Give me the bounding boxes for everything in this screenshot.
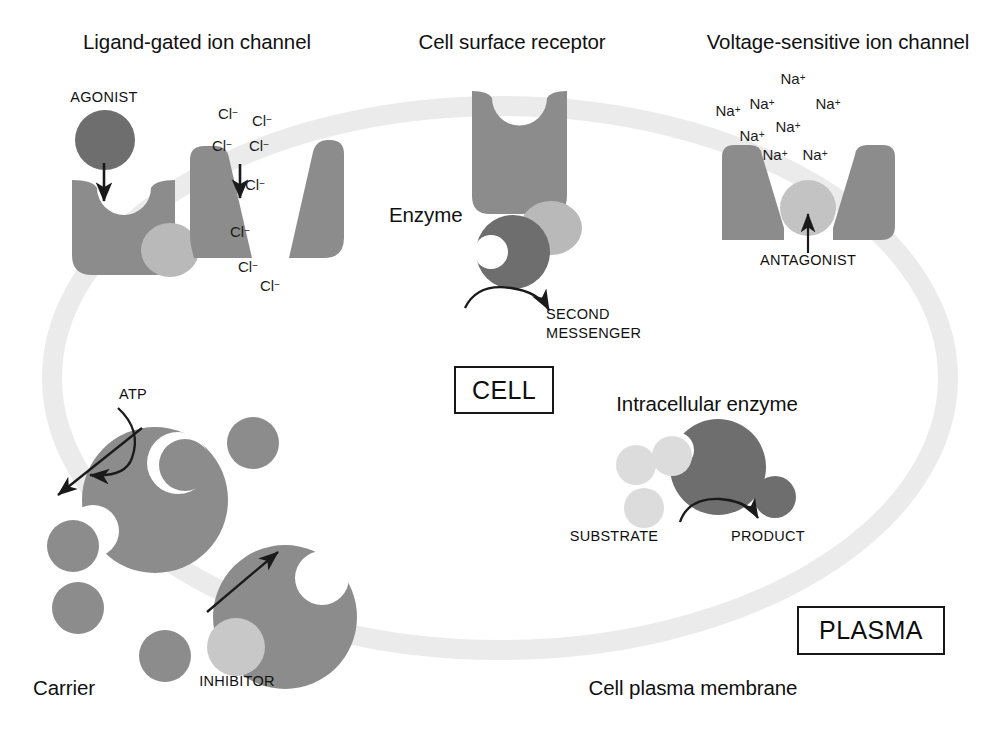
sodium-ion-label: Na+ bbox=[762, 146, 787, 163]
chloride-ion-label: Cl− bbox=[245, 176, 265, 193]
title-cell-surface-receptor: Cell surface receptor bbox=[418, 30, 605, 54]
substrate-molecule bbox=[616, 445, 656, 485]
sodium-ion-label: Na+ bbox=[715, 102, 740, 119]
cell-surface-receptor-group bbox=[465, 91, 582, 310]
sodium-ion-label: Na+ bbox=[775, 118, 800, 135]
label-antagonist: ANTAGONIST bbox=[760, 252, 856, 269]
label-substrate: SUBSTRATE bbox=[570, 528, 659, 545]
sodium-ion-label: Na+ bbox=[749, 95, 774, 112]
inhibitor-molecule bbox=[207, 618, 265, 676]
enzyme-active-site-notch bbox=[474, 235, 508, 269]
chloride-ion-label: Cl− bbox=[230, 223, 250, 240]
compartment-box-plasma-label: PLASMA bbox=[819, 616, 923, 645]
chloride-ion-label: Cl− bbox=[238, 258, 258, 275]
label-enzyme: Enzyme bbox=[389, 203, 462, 227]
label-second-messenger-line2: MESSENGER bbox=[546, 325, 641, 342]
carrier-group bbox=[47, 408, 357, 689]
title-ligand-gated-ion-channel: Ligand-gated ion channel bbox=[83, 30, 311, 54]
substrate-molecule bbox=[624, 488, 664, 528]
label-inhibitor: INHIBITOR bbox=[199, 673, 275, 690]
carrier-lower-binding-notch bbox=[295, 551, 349, 605]
sodium-ion-label: Na+ bbox=[739, 127, 764, 144]
solute-circle bbox=[139, 630, 191, 682]
sodium-ion-label: Na+ bbox=[802, 146, 827, 163]
solute-circle bbox=[52, 582, 104, 634]
chloride-ion-label: Cl− bbox=[252, 112, 272, 129]
compartment-box-cell-label: CELL bbox=[472, 376, 536, 405]
label-product: PRODUCT bbox=[731, 528, 805, 545]
solute-circle bbox=[47, 520, 99, 572]
chloride-ion-label: Cl− bbox=[249, 137, 269, 154]
label-second-messenger-line1: SECOND bbox=[546, 306, 610, 323]
title-intracellular-enzyme: Intracellular enzyme bbox=[616, 392, 797, 416]
label-atp: ATP bbox=[119, 386, 147, 403]
substrate-molecule bbox=[652, 436, 692, 476]
product-molecule bbox=[754, 476, 796, 518]
chloride-ion-label: Cl− bbox=[260, 277, 280, 294]
chloride-ion-label: Cl− bbox=[218, 105, 238, 122]
label-agonist: AGONIST bbox=[70, 89, 137, 106]
title-cell-plasma-membrane: Cell plasma membrane bbox=[589, 676, 798, 700]
sodium-ion-label: Na+ bbox=[815, 95, 840, 112]
compartment-box-cell: CELL bbox=[454, 366, 554, 414]
second-messenger-arrow bbox=[465, 287, 549, 310]
chloride-ion-label: Cl− bbox=[212, 137, 232, 154]
intracellular-enzyme-group bbox=[616, 419, 796, 528]
title-carrier: Carrier bbox=[33, 676, 95, 700]
title-voltage-sensitive-ion-channel: Voltage-sensitive ion channel bbox=[707, 30, 970, 54]
sodium-ion-label: Na+ bbox=[780, 70, 805, 87]
carrier-bound-solute bbox=[159, 439, 211, 491]
solute-circle bbox=[227, 417, 279, 469]
agonist-molecule bbox=[75, 110, 135, 170]
diagram-canvas: Ligand-gated ion channel Cell surface re… bbox=[0, 0, 1001, 734]
compartment-box-plasma: PLASMA bbox=[797, 606, 945, 655]
ion-channel-right-wall bbox=[289, 140, 344, 258]
